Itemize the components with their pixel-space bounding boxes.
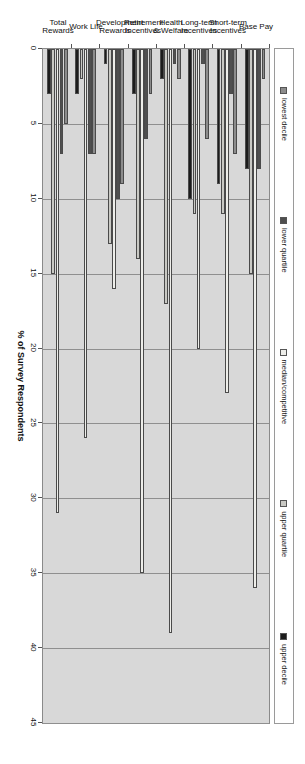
- bar-median-competitive: [140, 49, 144, 573]
- axis-tick: [38, 422, 42, 423]
- legend-swatch-icon: [281, 87, 288, 94]
- bar-lower-quartile: [257, 49, 261, 169]
- bar-upper-decile: [75, 49, 79, 94]
- value-axis-title: % of Survey Respondents: [16, 48, 26, 724]
- category-label: DevelopmentRewards: [106, 8, 123, 46]
- bar-median-competitive: [225, 49, 229, 393]
- legend-swatch-icon: [281, 633, 288, 640]
- legend-swatch-icon: [281, 500, 288, 507]
- axis-tick: [38, 273, 42, 274]
- bar-lower-quartile: [201, 49, 205, 64]
- axis-tick: [38, 572, 42, 573]
- bar-upper-quartile: [193, 49, 197, 214]
- bar-upper-quartile: [80, 49, 84, 79]
- category-tick: [71, 44, 72, 48]
- legend-swatch-icon: [281, 217, 288, 224]
- category-label: Work Life: [82, 8, 90, 46]
- category-label: TotalRewards: [50, 8, 67, 46]
- category-label: Short-termIncentives: [219, 8, 236, 46]
- axis-tick: [38, 123, 42, 124]
- category-group: [156, 49, 184, 723]
- category-group: [241, 49, 269, 723]
- category-label-text: TotalRewards: [39, 19, 77, 36]
- axis-tick-label: 10: [29, 193, 38, 202]
- value-axis: 051015202530354045: [26, 48, 42, 724]
- chart-page: lowest decilelower quartilemedian/compet…: [0, 0, 305, 764]
- category-group: [128, 49, 156, 723]
- legend-label: lowest decile: [280, 98, 288, 141]
- legend-swatch-icon: [281, 349, 288, 356]
- bar-median-competitive: [253, 49, 257, 588]
- bar-upper-quartile: [136, 49, 140, 259]
- category-group: [71, 49, 99, 723]
- axis-tick-label: 5: [29, 121, 38, 125]
- bar-lower-quartile: [144, 49, 148, 139]
- legend-label: upper decile: [280, 644, 288, 685]
- legend-item-upper-quartile: upper quartile: [280, 500, 288, 557]
- bar-lowest-decile: [149, 49, 153, 94]
- axis-tick-label: 40: [29, 643, 38, 652]
- bar-upper-decile: [188, 49, 192, 199]
- legend-item-lowest-decile: lowest decile: [280, 87, 288, 141]
- axis-tick: [38, 722, 42, 723]
- axis-tick: [38, 48, 42, 49]
- category-group: [43, 49, 71, 723]
- axis-tick: [38, 647, 42, 648]
- bar-upper-decile: [132, 49, 136, 94]
- bar-upper-quartile: [164, 49, 168, 304]
- category-label: Base Pay: [252, 8, 260, 46]
- rotation-stage: lowest decilelower quartilemedian/compet…: [6, 8, 298, 756]
- bar-upper-decile: [47, 49, 51, 94]
- bar-lowest-decile: [177, 49, 181, 79]
- bar-lower-quartile: [88, 49, 92, 154]
- legend-label: upper quartile: [280, 511, 288, 557]
- axis-tick-label: 30: [29, 493, 38, 502]
- rotated-chart: lowest decilelower quartilemedian/compet…: [6, 8, 298, 756]
- bar-lowest-decile: [64, 49, 68, 124]
- category-tick: [156, 44, 157, 48]
- category-tick: [184, 44, 185, 48]
- category-tick: [269, 44, 270, 48]
- axis-tick: [38, 348, 42, 349]
- axis-tick-label: 20: [29, 343, 38, 352]
- category-label: Health& Welfare: [163, 8, 180, 46]
- bar-upper-quartile: [108, 49, 112, 244]
- bar-upper-quartile: [249, 49, 253, 274]
- bar-lower-quartile: [60, 49, 64, 154]
- bar-upper-decile: [104, 49, 108, 64]
- bar-median-competitive: [169, 49, 173, 633]
- axis-tick-label: 25: [29, 418, 38, 427]
- legend-label: lower quartile: [280, 228, 288, 273]
- category-tick: [100, 44, 101, 48]
- gridline: [43, 723, 269, 724]
- axis-tick-label: 45: [29, 718, 38, 727]
- axis-tick-label: 0: [29, 46, 38, 50]
- category-tick: [213, 44, 214, 48]
- bar-lowest-decile: [205, 49, 209, 139]
- category-group: [184, 49, 212, 723]
- bar-upper-quartile: [221, 49, 225, 214]
- legend-item-upper-decile: upper decile: [280, 633, 288, 685]
- bar-upper-decile: [217, 49, 221, 184]
- axis-tick-label: 15: [29, 268, 38, 277]
- axis-tick-label: 35: [29, 568, 38, 577]
- bar-upper-quartile: [51, 49, 55, 274]
- bar-median-competitive: [197, 49, 201, 349]
- bar-lower-quartile: [116, 49, 120, 199]
- category-group: [100, 49, 128, 723]
- bar-upper-decile: [245, 49, 249, 169]
- plot-area: [42, 48, 270, 724]
- bar-lowest-decile: [120, 49, 124, 184]
- bar-lowest-decile: [262, 49, 266, 79]
- category-tick: [128, 44, 129, 48]
- chart-area: lowest decilelower quartilemedian/compet…: [6, 8, 298, 756]
- bar-upper-decile: [160, 49, 164, 79]
- legend-item-median-competitive: median/competitive: [280, 349, 288, 425]
- bar-median-competitive: [84, 49, 88, 438]
- chart-legend: lowest decilelower quartilemedian/compet…: [274, 48, 294, 724]
- bar-lower-quartile: [229, 49, 233, 94]
- bar-median-competitive: [56, 49, 60, 513]
- axis-tick: [38, 497, 42, 498]
- bar-lowest-decile: [233, 49, 237, 154]
- category-group: [213, 49, 241, 723]
